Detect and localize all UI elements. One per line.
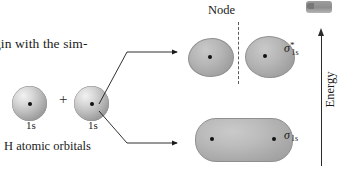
sigma-antibonding-label: σ*1s bbox=[284, 40, 299, 57]
sigma-glyph-bonding: σ bbox=[284, 128, 290, 142]
sigma-subscript-1s-antibonding: 1s bbox=[291, 48, 298, 57]
node-dashed-line bbox=[238, 22, 239, 84]
nucleus-dot-bonding-left bbox=[210, 137, 214, 141]
mo-diagram-figure: gin with the sim- + 1s 1s H atomic orbit… bbox=[0, 0, 342, 169]
nucleus-dot-antibonding-left bbox=[208, 55, 212, 59]
arrow-to-antibonding bbox=[99, 52, 177, 104]
nucleus-dot-antibonding-right bbox=[263, 54, 267, 58]
sigma-bonding-label: σ1s bbox=[284, 128, 298, 143]
arrow-to-bonding bbox=[99, 111, 177, 143]
energy-axis-label: Energy bbox=[323, 60, 338, 120]
node-label: Node bbox=[208, 3, 235, 18]
nucleus-dot-bonding-right bbox=[272, 137, 276, 141]
sigma-subscript-1s-bonding: 1s bbox=[291, 134, 298, 143]
